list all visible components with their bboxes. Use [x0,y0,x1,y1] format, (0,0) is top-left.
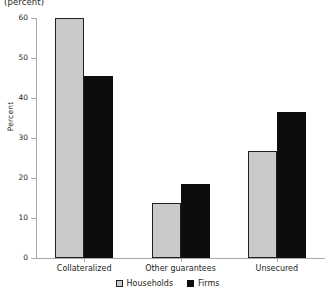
y-axis-tick: 50 [31,58,36,59]
legend-label: Firms [198,279,219,288]
y-axis-tick-label: 50 [18,53,28,62]
legend-item-firms[interactable]: Firms [187,279,219,288]
legend-swatch-icon [187,280,194,287]
bar-firms-unsecured[interactable] [277,112,306,258]
y-axis-tick: 10 [31,218,36,219]
y-axis-title: Percent [6,87,15,147]
y-axis-tick-label: 30 [18,133,28,142]
x-axis-category-label: Other guarantees [145,264,216,274]
x-axis-tick [181,258,182,262]
chart-figure: (percent) Percent 0102030405060Collatera… [0,0,335,296]
x-axis-tick [277,258,278,262]
y-axis-tick-label: 0 [23,253,28,262]
chart-legend: HouseholdsFirms [0,279,335,288]
legend-label: Households [127,279,174,288]
y-axis-tick-label: 60 [18,13,28,22]
x-axis-tick [84,258,85,262]
y-axis-tick-label: 40 [18,93,28,102]
legend-swatch-icon [116,280,123,287]
y-axis-tick: 30 [31,138,36,139]
x-axis-category-label: Collateralized [57,264,112,274]
y-axis-tick-label: 20 [18,173,28,182]
y-axis-line [36,18,37,258]
x-axis-category-label: Unsecured [256,264,299,274]
bar-firms-collateralized[interactable] [84,76,113,258]
y-axis-tick: 20 [31,178,36,179]
y-axis-tick: 40 [31,98,36,99]
plot-area: 0102030405060CollateralizedOther guarant… [36,18,325,258]
unit-note: (percent) [4,0,44,7]
y-axis-tick: 60 [31,18,36,19]
bar-firms-other-guarantees[interactable] [181,184,210,258]
bar-households-collateralized[interactable] [55,18,84,258]
bar-households-unsecured[interactable] [248,151,277,258]
legend-item-households[interactable]: Households [116,279,174,288]
bar-households-other-guarantees[interactable] [152,203,181,258]
y-axis-tick: 0 [31,258,36,259]
y-axis-tick-label: 10 [18,213,28,222]
